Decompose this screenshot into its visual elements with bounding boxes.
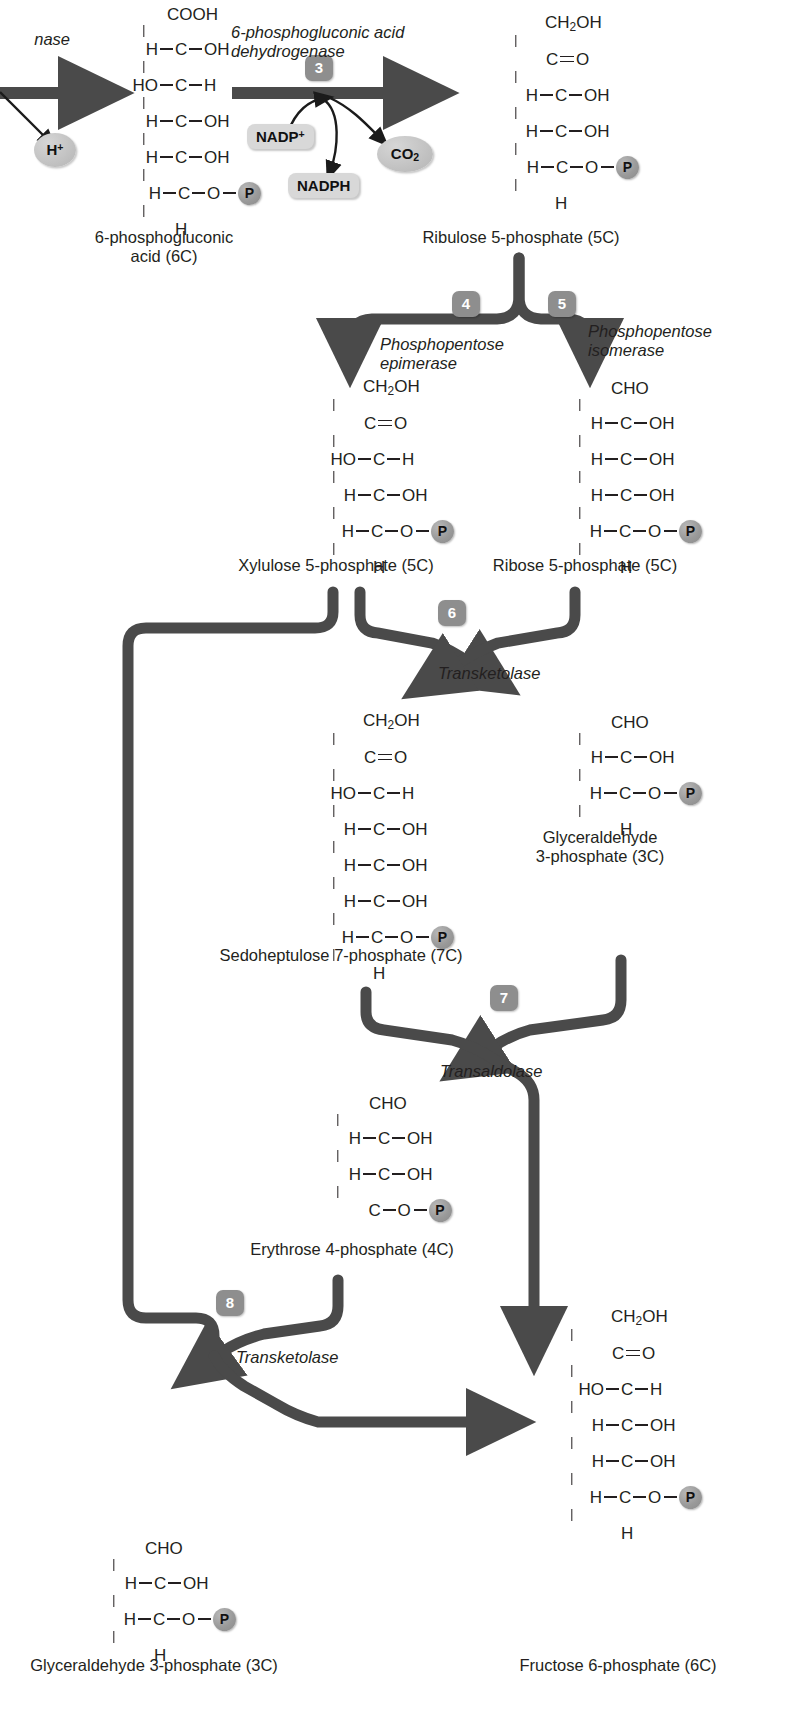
enzyme-label-partial: nase <box>0 30 70 49</box>
label-sedoheptulose-7-phosphate: Sedoheptulose 7-phosphate (7C) <box>196 946 486 965</box>
pentose-phosphate-pathway-diagram: 3 4 5 6 7 8 nase 6-phosphogluconic acid … <box>0 0 785 1711</box>
label-xylulose-5-phosphate: Xylulose 5-phosphate (5C) <box>228 556 444 575</box>
enzyme-label-step-6: Transketolase <box>438 664 588 683</box>
step-badge-6[interactable]: 6 <box>438 600 466 626</box>
phosphate-icon: P <box>431 520 454 543</box>
molecule-ribose-5-phosphate: CHO HCOH HCOH HCOH HCOP H <box>512 378 742 578</box>
phosphate-icon: P <box>238 182 261 205</box>
step-badge-7[interactable]: 7 <box>490 985 518 1011</box>
cofactor-co2: CO2 <box>377 136 433 172</box>
enzyme-label-step-7: Transaldolase <box>440 1062 590 1081</box>
molecule-glyceraldehyde-3-phosphate-top: CHO HCOH HCOP H <box>512 712 742 840</box>
molecule-glyceraldehyde-3-phosphate-bottom: CHO HCOH HCOP H <box>46 1538 276 1666</box>
molecule-erythrose-4-phosphate: CHO HCOH HCOH COP <box>270 1093 500 1221</box>
phosphate-icon: P <box>679 782 702 805</box>
cofactor-nadph: NADPH <box>288 173 359 198</box>
cofactor-co2-text: CO2 <box>391 145 419 163</box>
step-badge-8[interactable]: 8 <box>216 1290 244 1316</box>
cofactor-h-plus-text: H+ <box>47 141 64 158</box>
label-erythrose-4-phosphate: Erythrose 4-phosphate (4C) <box>222 1240 482 1259</box>
phosphate-icon: P <box>213 1608 236 1631</box>
step-badge-4[interactable]: 4 <box>452 291 480 317</box>
step-badge-5[interactable]: 5 <box>548 291 576 317</box>
cofactor-nadph-text: NADPH <box>297 177 350 194</box>
molecule-xylulose-5-phosphate: CH2OH CO HOCH HCOH HCOP H <box>262 378 492 578</box>
molecule-6-phosphogluconic-acid: COOH HCOH HOCH HCOH HCOH HCOP H <box>66 4 296 240</box>
phosphate-icon: P <box>679 520 702 543</box>
label-6-phosphogluconic-acid: 6-phosphogluconic acid (6C) <box>64 228 264 266</box>
phosphate-icon: P <box>616 156 639 179</box>
enzyme-label-step-4: Phosphopentose epimerase <box>380 335 540 373</box>
enzyme-label-step-8: Transketolase <box>236 1348 386 1367</box>
phosphate-icon: P <box>429 1199 452 1222</box>
label-ribulose-5-phosphate: Ribulose 5-phosphate (5C) <box>398 228 644 247</box>
enzyme-label-step-5: Phosphopentose isomerase <box>588 322 763 360</box>
molecule-ribulose-5-phosphate: CH2OH CO HCOH HCOH HCOP H <box>450 14 680 214</box>
phosphate-icon: P <box>679 1486 702 1509</box>
label-glyceraldehyde-3-phosphate-top: Glyceraldehyde 3-phosphate (3C) <box>500 828 700 866</box>
label-ribose-5-phosphate: Ribose 5-phosphate (5C) <box>480 556 690 575</box>
molecule-sedoheptulose-7-phosphate: CH2OH CO HOCH HCOH HCOH HCOH HCOP H <box>262 712 492 984</box>
label-fructose-6-phosphate: Fructose 6-phosphate (6C) <box>468 1656 768 1675</box>
label-glyceraldehyde-3-phosphate-bottom: Glyceraldehyde 3-phosphate (3C) <box>4 1656 304 1675</box>
molecule-fructose-6-phosphate: CH2OH CO HOCH HCOH HCOH HCOP H <box>500 1308 750 1544</box>
